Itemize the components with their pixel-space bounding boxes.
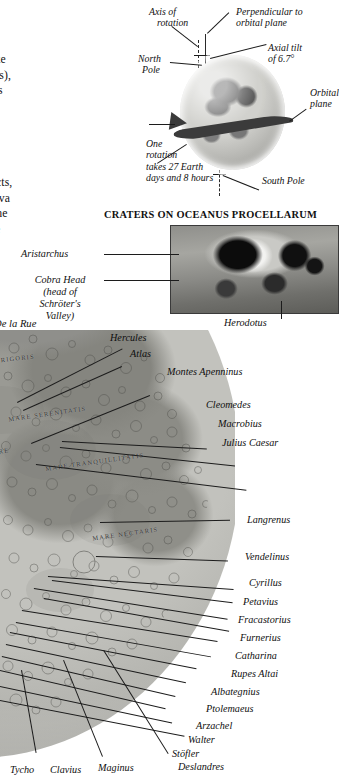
body-copy-line: ral satellite. [0, 6, 94, 21]
label-langrenus: Langrenus [247, 514, 290, 526]
body-copy-paragraph: ral satellite. a diameter arter that of … [0, 6, 94, 253]
leader-line-rotation-arrow [149, 124, 175, 125]
label-one-rotation: One rotation takes 27 Earth days and 8 h… [146, 138, 213, 184]
label-perpendicular-to-orbital-plane: Perpendicular to orbital plane [236, 6, 303, 29]
rotation-direction-arrow-icon [169, 112, 188, 132]
label-rupes-altai: Rupes Altai [231, 668, 278, 680]
encyclopedia-page: ral satellite. a diameter arter that of … [0, 0, 339, 776]
body-copy-line: Many of the [0, 222, 94, 237]
moon-rotation-diagram: Axis of rotation Perpendicular to orbita… [150, 0, 339, 206]
body-copy-line: a diameter [0, 21, 94, 36]
label-herodotus: Herodotus [224, 317, 267, 329]
leader-line-cobra-head [104, 280, 179, 281]
label-line: rotation [149, 17, 188, 28]
label-arzachel: Arzachel [196, 720, 232, 732]
label-line: Orbital [310, 87, 339, 98]
label-line: Axial tilt [268, 42, 302, 53]
label-south-pole: South Pole [262, 175, 305, 186]
label-maginus: Maginus [98, 762, 134, 773]
leader-line-aristarchus [104, 254, 179, 255]
body-copy-line: eorite impacts, [0, 175, 94, 190]
leader-line-herodotus [281, 301, 282, 319]
leader-line-axis [171, 26, 198, 47]
label-line: South Pole [262, 175, 305, 186]
oceanus-procellarum-photo [170, 225, 339, 314]
label-tycho: Tycho [10, 764, 34, 775]
label-fracastorius: Fracastorius [238, 614, 291, 626]
body-copy-line: mainly on the [0, 206, 94, 221]
label-axial-tilt: Axial tilt of 6.7° [268, 42, 302, 65]
label-axis-of-rotation: Axis of rotation [149, 6, 188, 29]
label-aristarchus: Aristarchus [21, 248, 68, 260]
body-copy-line: ds on how [0, 114, 94, 129]
label-north-pole: North Pole [138, 53, 161, 76]
label-furnerius: Furnerius [240, 632, 281, 644]
label-line: Perpendicular to [236, 6, 303, 17]
label-line: takes 27 Earth [146, 161, 213, 172]
label-catharina: Catharina [235, 650, 277, 662]
label-line: orbital plane [236, 17, 303, 28]
label-hercules: Hercules [110, 332, 146, 344]
label-line: of 6.7° [268, 53, 302, 64]
label-line: Schröter's [16, 298, 104, 310]
label-atlas: Atlas [130, 348, 151, 360]
label-line: Axis of [149, 6, 188, 17]
label-line: Cobra Head [16, 274, 104, 286]
label-line: plane [310, 98, 339, 109]
body-copy-line: surface is [0, 160, 94, 175]
label-line: rotation [146, 149, 213, 160]
label-deslandres: Deslandres [178, 761, 224, 773]
body-copy-line: th (27.3 days), [0, 68, 94, 83]
label-petavius: Petavius [243, 596, 278, 608]
label-line: North [138, 53, 161, 64]
body-copy-line: always faces [0, 83, 94, 98]
moon-near-side-map-photo: MARE FRIGORIS MARE SERENITATIS MARE TRAN… [0, 330, 235, 776]
craters-section-title: CRATERS ON OCEANUS PROCELLARUM [104, 209, 339, 220]
leader-line-perpendicular [207, 12, 229, 33]
label-line: Pole [138, 64, 161, 75]
axial-tilt-tick [194, 55, 210, 56]
label-cleomedes: Cleomedes [206, 399, 251, 411]
label-walter: Walter [188, 734, 215, 746]
body-copy-line: ace we can [0, 98, 94, 113]
leader-line-orbital-plane [289, 109, 307, 122]
label-orbital-plane: Orbital plane [310, 87, 339, 110]
label-line: Valley) [16, 310, 104, 322]
body-copy-line: nd barren, [0, 129, 94, 144]
leader-line-south-pole [223, 175, 259, 190]
body-copy-line: time to rotate [0, 52, 94, 67]
body-copy-line: solidified lava [0, 191, 94, 206]
label-montes-apenninus: Montes Apenninus [167, 366, 242, 378]
label-vendelinus: Vendelinus [245, 551, 289, 563]
label-albategnius: Albategnius [211, 686, 260, 698]
label-cobra-head: Cobra Head (head of Schröter's Valley) [16, 274, 104, 322]
crater-texture-overlay [0, 330, 235, 776]
label-clavius: Clavius [50, 764, 81, 775]
label-cyrillus: Cyrillus [249, 577, 282, 589]
body-copy-line: arter that of [0, 37, 94, 52]
label-stofler: Stöfler [172, 748, 199, 760]
label-line: One [146, 138, 213, 149]
label-line: days and 8 hours [146, 172, 213, 183]
label-line: (head of [16, 286, 104, 298]
label-macrobius: Macrobius [218, 418, 262, 430]
label-ptolemaeus: Ptolemaeus [206, 703, 254, 715]
body-copy-line: rock, [0, 145, 94, 160]
label-julius-caesar: Julius Caesar [222, 437, 278, 449]
